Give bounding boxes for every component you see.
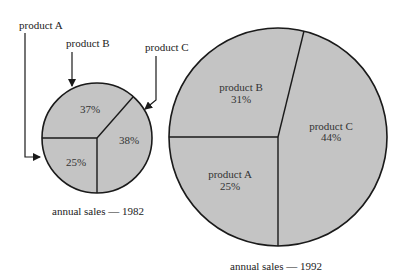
slice-a-pct: 25% bbox=[220, 180, 240, 192]
callout-product-c: product C bbox=[145, 41, 189, 53]
slice-b-pct: 37% bbox=[80, 103, 100, 115]
slice-a-name: product A bbox=[208, 168, 252, 180]
pie-1992: product B 31% product C 44% product A 25… bbox=[169, 28, 387, 272]
arrow-product-c bbox=[145, 56, 156, 109]
pie-1982: 37% 38% 25% product A product B product … bbox=[19, 19, 189, 217]
caption-1982: annual sales — 1982 bbox=[52, 205, 144, 217]
callout-product-a: product A bbox=[19, 19, 63, 31]
callout-product-b: product B bbox=[66, 37, 110, 49]
slice-b-pct: 31% bbox=[231, 93, 251, 105]
slice-a-pct: 25% bbox=[66, 156, 86, 168]
slice-b-name: product B bbox=[219, 81, 263, 93]
pie-charts: 37% 38% 25% product A product B product … bbox=[0, 0, 405, 280]
arrow-product-a bbox=[25, 33, 40, 157]
slice-c-pct: 44% bbox=[321, 131, 341, 143]
caption-1992: annual sales — 1992 bbox=[230, 260, 322, 272]
slice-c-pct: 38% bbox=[119, 134, 139, 146]
